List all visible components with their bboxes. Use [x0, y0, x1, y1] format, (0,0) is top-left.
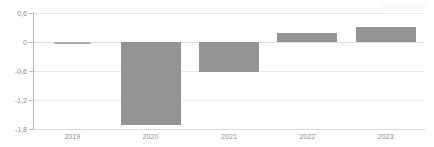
y-axis-line	[33, 13, 34, 129]
x-axis-label-2023: 2023	[378, 133, 394, 140]
y-axis-tick	[29, 13, 33, 14]
y-axis-label: -1,8	[0, 126, 27, 133]
x-axis-tick-labels: 20192020202120222023	[33, 133, 425, 145]
x-axis-label-2020: 2020	[143, 133, 159, 140]
bar-2021[interactable]	[199, 42, 259, 72]
bar-2020[interactable]	[121, 42, 181, 125]
bar-chart: 0,60-0,6-1,2-1,8 20192020202120222023	[0, 0, 434, 147]
x-axis-label-2022: 2022	[299, 133, 315, 140]
y-axis-label: -0,6	[0, 68, 27, 75]
y-axis-tick	[29, 129, 33, 130]
cropped-legend-artifact	[380, 2, 428, 9]
y-axis-tick	[29, 100, 33, 101]
y-axis-label: -1,2	[0, 97, 27, 104]
gridline-neg1-8	[33, 129, 425, 130]
y-axis-label: 0	[0, 39, 27, 46]
x-axis-label-2021: 2021	[221, 133, 237, 140]
x-axis-label-2019: 2019	[64, 133, 80, 140]
y-axis-label: 0,6	[0, 10, 27, 17]
y-axis-tick	[29, 42, 33, 43]
y-axis-tick	[29, 71, 33, 72]
plot-area	[33, 13, 425, 129]
bar-2019[interactable]	[54, 42, 91, 44]
gridline-neg1-2	[33, 100, 425, 101]
bar-2023[interactable]	[356, 27, 416, 42]
gridline-0neg6	[33, 13, 425, 14]
bar-2022[interactable]	[277, 33, 337, 42]
